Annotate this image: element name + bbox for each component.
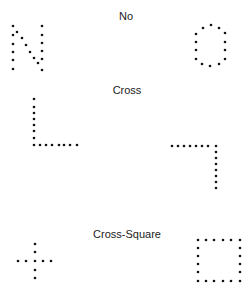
dot	[58, 144, 61, 147]
dot	[33, 118, 36, 121]
dot	[50, 260, 53, 263]
dot	[41, 42, 44, 45]
dot	[12, 43, 15, 46]
dot	[76, 144, 79, 147]
dot	[215, 157, 218, 160]
dot	[189, 145, 192, 148]
dot	[215, 151, 218, 154]
dot	[215, 175, 218, 178]
dot	[224, 41, 227, 44]
l-shape-dots	[33, 98, 79, 147]
dot	[218, 63, 221, 66]
dot	[197, 239, 200, 242]
dot	[21, 37, 24, 40]
dot	[197, 263, 200, 266]
dot	[215, 145, 218, 148]
dot	[222, 280, 225, 283]
dot-shapes-canvas	[0, 0, 252, 289]
dot	[218, 27, 221, 30]
dot	[239, 239, 242, 242]
dot	[230, 239, 233, 242]
dot	[25, 260, 28, 263]
dot	[41, 34, 44, 37]
dot	[34, 243, 37, 246]
dot	[171, 145, 174, 148]
dot	[197, 280, 200, 283]
dot	[195, 58, 198, 61]
square-shape-dots	[197, 239, 242, 283]
dot	[239, 263, 242, 266]
dot	[195, 41, 198, 44]
dot	[239, 255, 242, 258]
dot	[63, 144, 66, 147]
dot	[195, 49, 198, 52]
dot	[201, 145, 204, 148]
dot	[195, 145, 198, 148]
dot	[42, 260, 45, 263]
dot	[177, 145, 180, 148]
dot	[215, 169, 218, 172]
dot	[25, 44, 28, 47]
reverse-l-shape-dots	[171, 145, 218, 190]
dot	[239, 280, 242, 283]
dot	[195, 33, 198, 36]
dot	[205, 280, 208, 283]
dot	[29, 51, 32, 54]
dot	[33, 130, 36, 133]
dot	[51, 144, 54, 147]
dot	[215, 187, 218, 190]
dot	[41, 69, 44, 72]
dot	[197, 247, 200, 250]
n-letter-dots	[12, 25, 44, 72]
dot	[215, 163, 218, 166]
dot	[41, 58, 44, 61]
dot	[230, 280, 233, 283]
dot	[33, 112, 36, 115]
dot	[209, 65, 212, 68]
dot	[17, 260, 20, 263]
dot	[34, 251, 37, 254]
dot	[224, 58, 227, 61]
dot	[215, 181, 218, 184]
dot	[37, 62, 40, 65]
dot	[197, 255, 200, 258]
dot	[39, 144, 42, 147]
dot	[12, 68, 15, 71]
dot	[69, 144, 72, 147]
dot	[41, 50, 44, 53]
dot	[33, 98, 36, 101]
dot	[12, 51, 15, 54]
dot	[34, 269, 37, 272]
dot	[213, 239, 216, 242]
dot	[33, 57, 36, 60]
dot	[33, 124, 36, 127]
dot	[41, 25, 44, 28]
dot	[183, 145, 186, 148]
dot	[239, 247, 242, 250]
dot	[12, 25, 15, 28]
dot	[33, 144, 36, 147]
dot	[34, 260, 37, 263]
dot	[12, 59, 15, 62]
dot	[239, 271, 242, 274]
dot	[201, 63, 204, 66]
dot	[33, 137, 36, 140]
dot	[207, 145, 210, 148]
dot	[197, 271, 200, 274]
dot	[33, 106, 36, 109]
dot	[210, 24, 213, 27]
o-letter-dots	[195, 24, 227, 68]
dot	[224, 49, 227, 52]
dot	[45, 144, 48, 147]
dot	[222, 239, 225, 242]
dot	[202, 27, 205, 30]
plus-shape-dots	[17, 243, 53, 280]
dot	[224, 32, 227, 35]
dot	[12, 34, 15, 37]
dot	[205, 239, 208, 242]
dot	[34, 277, 37, 280]
dot	[213, 280, 216, 283]
dot	[16, 31, 19, 34]
